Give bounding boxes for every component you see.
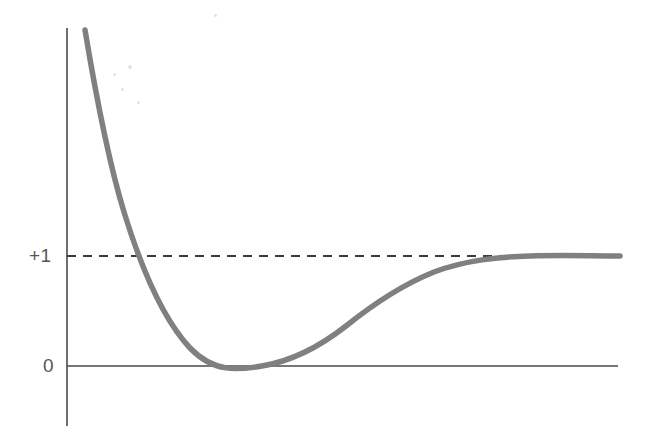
chart-figure: +1 0	[0, 0, 647, 447]
potential-curve	[85, 30, 620, 369]
scan-speck	[137, 101, 140, 104]
scan-speck	[113, 73, 116, 76]
y-tick-label-zero: 0	[43, 356, 54, 375]
scan-speck	[121, 88, 124, 91]
y-tick-label-plus-one: +1	[29, 246, 52, 265]
scan-speck	[128, 65, 132, 69]
scan-speck	[214, 14, 217, 17]
plot-canvas	[0, 0, 647, 447]
